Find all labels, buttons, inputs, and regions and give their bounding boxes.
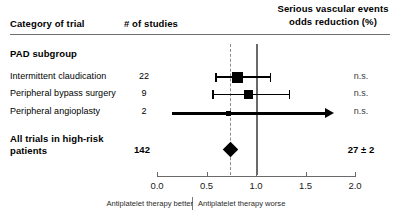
- x-axis-tick-3: [306, 172, 307, 176]
- reference-line-null-effect: [256, 44, 258, 175]
- summary-result: 27 ± 2: [330, 144, 392, 155]
- x-axis-label-0: 0.0: [137, 180, 177, 191]
- axis-footer-separator: [192, 197, 193, 210]
- confidence-interval-peripheral-bypass-surgery: [212, 94, 290, 96]
- header-outcome-line2: odds reduction (%): [268, 16, 398, 29]
- summary-label-line2: patients: [10, 145, 104, 157]
- axis-footer-right: Antiplatelet therapy worse: [198, 199, 285, 208]
- row-result-peripheral-bypass-surgery: n.s.: [330, 88, 392, 98]
- marker-intermittent-claudication: [232, 72, 243, 83]
- x-axis-tick-0: [157, 172, 158, 176]
- row-studies-peripheral-angioplasty: 2: [129, 106, 159, 116]
- summary-studies: 142: [127, 144, 157, 155]
- marker-summary-diamond: [223, 141, 239, 157]
- row-label-peripheral-angioplasty: Peripheral angioplasty: [10, 106, 100, 116]
- row-studies-peripheral-bypass-surgery: 9: [129, 88, 159, 98]
- row-label-intermittent-claudication: Intermittent claudication: [10, 71, 106, 81]
- summary-label-line1: All trials in high-risk: [10, 133, 104, 145]
- confidence-interval-intermittent-claudication: [215, 76, 271, 78]
- header-divider-rule: [10, 34, 390, 35]
- row-result-intermittent-claudication: n.s.: [330, 71, 392, 81]
- x-axis-tick-2: [256, 172, 257, 176]
- marker-peripheral-bypass-surgery: [244, 90, 253, 99]
- header-outcome-title: Serious vascular events odds reduction (…: [268, 3, 398, 28]
- marker-peripheral-angioplasty: [226, 111, 231, 116]
- ci-cap-left-peripheral-bypass-surgery: [212, 90, 214, 99]
- row-studies-intermittent-claudication: 22: [129, 71, 159, 81]
- x-axis-label-3: 1.5: [286, 180, 326, 191]
- group-title-pad-subgroup: PAD subgroup: [10, 48, 77, 59]
- header-number-of-studies: # of studies: [124, 18, 178, 29]
- row-label-peripheral-bypass-surgery: Peripheral bypass surgery: [10, 88, 116, 98]
- ci-cap-right-intermittent-claudication: [270, 73, 272, 82]
- header-outcome-line1: Serious vascular events: [268, 3, 398, 16]
- x-axis-label-2: 1.0: [236, 180, 276, 191]
- x-axis-tick-4: [355, 172, 356, 176]
- summary-label: All trials in high-risk patients: [10, 133, 104, 157]
- confidence-interval-peripheral-angioplasty: [172, 112, 327, 115]
- forest-plot-figure: Category of trial # of studies Serious v…: [0, 0, 399, 216]
- x-axis-label-1: 0.5: [187, 180, 227, 191]
- row-result-peripheral-angioplasty: n.s.: [330, 106, 392, 116]
- x-axis-tick-1: [207, 172, 208, 176]
- ci-cap-left-intermittent-claudication: [215, 73, 217, 82]
- ci-cap-right-peripheral-bypass-surgery: [289, 90, 291, 99]
- x-axis-label-4: 2.0: [335, 180, 375, 191]
- x-axis-line: [157, 176, 356, 177]
- reference-line-pooled-estimate: [230, 44, 231, 175]
- axis-footer-left: Antiplatelet therapy better: [106, 199, 193, 208]
- header-category-of-trial: Category of trial: [10, 18, 85, 29]
